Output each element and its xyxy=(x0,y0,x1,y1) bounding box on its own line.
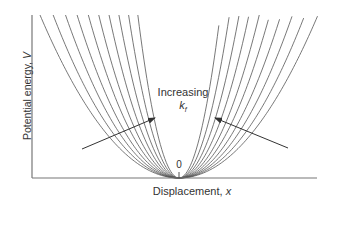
origin-label: 0 xyxy=(173,159,185,170)
annotation-kf: kf xyxy=(168,99,198,113)
x-axis-variable: x xyxy=(226,185,232,197)
y-axis-label: Potential energy, V xyxy=(21,41,33,151)
y-axis-label-text: Potential energy, xyxy=(21,59,33,140)
k-subscript: f xyxy=(185,106,187,113)
annotation-increasing: Increasing xyxy=(148,86,218,98)
x-axis-label-text: Displacement, xyxy=(153,185,226,197)
x-axis-label: Displacement, x xyxy=(137,185,247,197)
y-axis-variable: V xyxy=(21,52,33,59)
left-arrow xyxy=(82,118,155,149)
